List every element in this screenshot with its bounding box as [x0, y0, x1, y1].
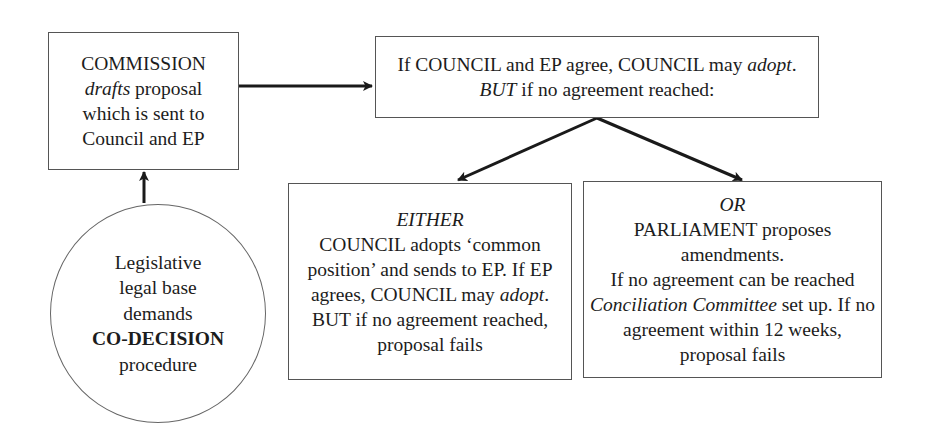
- text-line: BUT if no agreement reached:: [480, 77, 715, 102]
- text-segment: agreement within 12 weeks,: [623, 319, 842, 340]
- text-segment: COUNCIL adopts ‘common: [319, 234, 540, 255]
- text-segment: PARLIAMENT proposes: [634, 219, 832, 240]
- commission-box: COMMISSIONdrafts proposalwhich is sent t…: [48, 32, 239, 170]
- text-segment: OR: [720, 194, 746, 215]
- text-line: legal base: [119, 275, 196, 301]
- text-segment: COMMISSION: [81, 53, 206, 74]
- text-line: agreement within 12 weeks,: [623, 317, 842, 342]
- text-segment: demands: [123, 303, 192, 324]
- co-decision-circle: Legislativelegal basedemandsCO-DECISIONp…: [50, 204, 266, 423]
- text-segment: Legislative: [115, 252, 202, 273]
- text-segment: adopt: [500, 284, 544, 305]
- text-line: If COUNCIL and EP agree, COUNCIL may ado…: [397, 52, 796, 77]
- text-segment: BUT: [480, 79, 517, 100]
- text-segment: If no agreement can be reached: [610, 269, 854, 290]
- text-segment: set up. If no: [777, 294, 875, 315]
- text-line: CO-DECISION: [92, 326, 224, 352]
- text-segment: .: [792, 54, 797, 75]
- either-box: EITHERCOUNCIL adopts ‘commonposition’ an…: [288, 183, 572, 380]
- text-line: COMMISSION: [81, 51, 206, 76]
- text-line: Council and EP: [82, 126, 204, 151]
- text-segment: BUT if no agreement reached,: [312, 309, 548, 330]
- text-segment: If COUNCIL and EP agree, COUNCIL may: [397, 54, 747, 75]
- text-segment: proposal fails: [377, 334, 483, 355]
- arrow-agreement-to-or: [597, 118, 742, 180]
- text-line: amendments.: [681, 242, 784, 267]
- agreement-box: If COUNCIL and EP agree, COUNCIL may ado…: [375, 36, 819, 118]
- text-line: PARLIAMENT proposes: [634, 217, 832, 242]
- text-line: proposal fails: [680, 342, 786, 367]
- text-line: If no agreement can be reached: [610, 267, 854, 292]
- text-line: procedure: [119, 352, 197, 378]
- text-segment: which is sent to: [83, 103, 205, 124]
- text-line: Legislative: [115, 250, 202, 276]
- text-segment: amendments.: [681, 244, 784, 265]
- text-line: COUNCIL adopts ‘common: [319, 232, 540, 257]
- text-segment: position’ and sends to EP. If EP: [307, 259, 552, 280]
- text-line: OR: [720, 192, 746, 217]
- text-line: Conciliation Committee set up. If no: [590, 292, 875, 317]
- text-segment: CO-DECISION: [92, 328, 224, 349]
- text-segment: if no agreement reached:: [516, 79, 714, 100]
- or-box: ORPARLIAMENT proposesamendments.If no ag…: [583, 181, 882, 378]
- text-segment: proposal: [130, 78, 202, 99]
- text-line: demands: [123, 301, 192, 327]
- text-segment: EITHER: [396, 209, 463, 230]
- text-segment: procedure: [119, 354, 197, 375]
- text-segment: legal base: [119, 277, 196, 298]
- text-segment: adopt: [747, 54, 791, 75]
- text-line: proposal fails: [377, 332, 483, 357]
- text-segment: Conciliation Committee: [590, 294, 777, 315]
- text-segment: .: [544, 284, 549, 305]
- text-line: drafts proposal: [85, 76, 203, 101]
- text-segment: Council and EP: [82, 128, 204, 149]
- text-segment: drafts: [85, 78, 131, 99]
- text-line: BUT if no agreement reached,: [312, 307, 548, 332]
- text-line: EITHER: [396, 207, 463, 232]
- text-line: which is sent to: [83, 101, 205, 126]
- arrow-agreement-to-either: [458, 118, 597, 180]
- text-segment: agrees, COUNCIL may: [311, 284, 500, 305]
- text-segment: proposal fails: [680, 344, 786, 365]
- text-line: position’ and sends to EP. If EP: [307, 257, 552, 282]
- text-line: agrees, COUNCIL may adopt.: [311, 282, 549, 307]
